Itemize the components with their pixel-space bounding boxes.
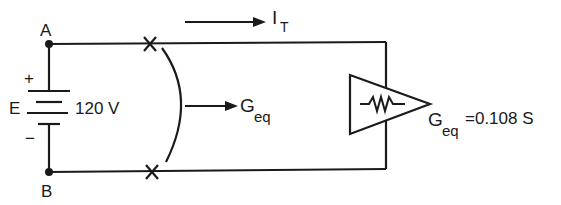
source-voltage: 120 V [75,99,120,118]
node-b-dot [45,168,53,176]
load-value: =0.108 S [465,109,534,128]
bottom-wire [48,169,386,172]
node-b-label: B [41,182,52,201]
top-wire [48,42,386,44]
load-subscript: eq [442,122,459,139]
node-a-dot [45,40,53,48]
current-arrow-head-icon [253,17,266,27]
circuit-diagram: A B + − E 120 V I T G eq G eq =0.108 S [0,0,561,205]
load-symbol: G [428,109,443,130]
geq-subscript: eq [254,108,271,125]
equivalent-bracket [162,48,181,162]
source-label: E [9,99,20,118]
current-symbol: I [272,7,277,28]
plus-sign: + [24,69,34,88]
geq-symbol: G [240,95,255,116]
node-a-label: A [40,21,52,40]
geq-arrow-head-icon [225,101,238,111]
current-subscript: T [280,19,289,35]
minus-sign: − [25,129,35,148]
